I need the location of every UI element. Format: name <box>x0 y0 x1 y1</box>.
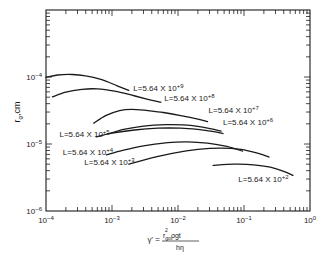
log-log-chart: L=5.64 X 10+9L=5.64 X 10+8L=5.64 X 10+7L… <box>0 0 323 265</box>
x-tick-label: 10−3 <box>104 215 120 225</box>
curve-L1e5 <box>96 128 223 137</box>
curve-labels: L=5.64 X 10+9L=5.64 X 10+8L=5.64 X 10+7L… <box>59 83 289 184</box>
y-tick-label: 10−6 <box>26 206 42 216</box>
curve-label: L=5.64 X 10+4 <box>63 147 114 157</box>
svg-text:2: 2 <box>165 227 168 233</box>
svg-text:hη: hη <box>176 244 184 252</box>
x-axis-label: γ' =rgoρgt2hη <box>148 227 199 252</box>
x-tick-label: 10−4 <box>38 215 54 225</box>
y-axis-label: rg,cm <box>12 102 23 123</box>
y-tick-label: 10−4 <box>26 72 42 82</box>
curve-L1e3 <box>129 148 269 164</box>
curve-label: L=5.64 X 10+9 <box>133 83 184 93</box>
y-tick-label: 10−5 <box>26 139 42 149</box>
curve-L1e7 <box>94 109 208 123</box>
curve-label: L=5.64 X 10+5 <box>59 129 110 139</box>
svg-text:rgoρgt: rgoρgt <box>163 232 181 241</box>
curve-label: L=5.64 X 10+3 <box>84 157 135 167</box>
curve-L1e6 <box>107 125 221 135</box>
curve-label: L=5.64 X 10+2 <box>238 174 289 184</box>
curve-label: L=5.64 X 10+8 <box>164 93 215 103</box>
x-tick-label: 100 <box>304 215 317 225</box>
x-tick-label: 10−1 <box>236 215 252 225</box>
svg-text:γ' =: γ' = <box>148 235 161 244</box>
curve-label: L=5.64 X 10+6 <box>223 117 274 127</box>
x-tick-label: 10−2 <box>170 215 186 225</box>
curve-label: L=5.64 X 10+7 <box>209 105 260 115</box>
curve-L1e9 <box>46 74 129 90</box>
